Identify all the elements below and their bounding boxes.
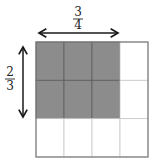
shaded-cell <box>92 42 120 80</box>
grid-cells <box>36 42 148 157</box>
vertical-denominator: 3 <box>6 79 14 93</box>
shaded-cell <box>36 42 64 80</box>
horizontal-denominator: 4 <box>74 18 82 32</box>
unshaded-cell <box>92 119 120 157</box>
unshaded-cell <box>120 42 148 80</box>
unshaded-cell <box>120 119 148 157</box>
shaded-cell <box>36 80 64 118</box>
shaded-cell <box>64 42 92 80</box>
shaded-cell <box>64 80 92 118</box>
unshaded-cell <box>36 119 64 157</box>
horizontal-fraction-label: 3 4 <box>73 5 83 32</box>
fraction-area-model: 3 4 2 3 <box>0 0 156 167</box>
horizontal-numerator: 3 <box>74 5 82 19</box>
unshaded-cell <box>120 80 148 118</box>
unshaded-cell <box>64 119 92 157</box>
vertical-fraction-label: 2 3 <box>5 65 15 93</box>
shaded-cell <box>92 80 120 118</box>
vertical-numerator: 2 <box>6 65 14 79</box>
